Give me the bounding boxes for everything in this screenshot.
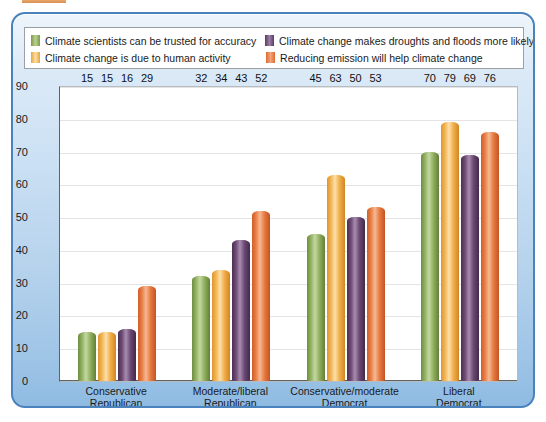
bar-wrapper: 50 xyxy=(347,86,365,381)
bar[interactable]: 50 xyxy=(347,217,365,381)
bar[interactable]: 76 xyxy=(481,132,499,381)
legend-label: Climate change is due to human activity xyxy=(45,52,231,64)
legend-swatch-yellow-icon xyxy=(31,52,40,63)
bar[interactable]: 15 xyxy=(98,332,116,381)
legend-swatch-purple-icon xyxy=(265,35,274,46)
legend-swatch-green-icon xyxy=(31,35,40,46)
y-axis-tick-40: 40 xyxy=(11,244,28,256)
bar-wrapper: 34 xyxy=(212,86,230,381)
y-axis-tick-10: 10 xyxy=(11,342,28,354)
bar-wrapper: 29 xyxy=(138,86,156,381)
bar-wrapper: 79 xyxy=(441,86,459,381)
legend-row: Climate scientists can be trusted for ac… xyxy=(31,32,523,49)
bar-value-label: 45 xyxy=(310,72,322,84)
bar-wrapper: 43 xyxy=(232,86,250,381)
bar[interactable]: 15 xyxy=(78,332,96,381)
bar-value-label: 70 xyxy=(424,72,436,84)
bar[interactable]: 52 xyxy=(252,211,270,381)
y-axis-tick-70: 70 xyxy=(11,146,28,158)
bar-wrapper: 52 xyxy=(252,86,270,381)
legend-swatch-orange-icon xyxy=(266,52,275,63)
chart-panel: Climate scientists can be trusted for ac… xyxy=(11,12,535,408)
bar[interactable]: 70 xyxy=(421,152,439,381)
y-axis-tick-50: 50 xyxy=(11,211,28,223)
y-axis-tick-60: 60 xyxy=(11,178,28,190)
y-axis-tick-90: 90 xyxy=(11,80,28,92)
bar-value-label: 43 xyxy=(235,72,247,84)
bar-group: 32344352 xyxy=(174,86,288,381)
bar-value-label: 52 xyxy=(255,72,267,84)
bar-value-label: 29 xyxy=(141,72,153,84)
legend-row: Climate change is due to human activity … xyxy=(31,49,523,66)
legend-item-droughts-floods: Climate change makes droughts and floods… xyxy=(265,35,523,47)
bar[interactable]: 29 xyxy=(138,286,156,381)
bar-wrapper: 76 xyxy=(481,86,499,381)
bar[interactable]: 63 xyxy=(327,175,345,382)
bar[interactable]: 69 xyxy=(461,155,479,381)
legend-item-human-activity: Climate change is due to human activity xyxy=(31,52,266,64)
legend-label: Climate change makes droughts and floods… xyxy=(279,35,534,47)
bar-value-label: 15 xyxy=(101,72,113,84)
bar[interactable]: 79 xyxy=(441,122,459,381)
bar[interactable]: 45 xyxy=(307,234,325,382)
chart-legend: Climate scientists can be trusted for ac… xyxy=(24,27,524,69)
top-decorative-rule xyxy=(22,0,66,3)
bar-wrapper: 45 xyxy=(307,86,325,381)
bar-group: 45635053 xyxy=(289,86,403,381)
y-axis-tick-20: 20 xyxy=(11,309,28,321)
bar-value-label: 69 xyxy=(464,72,476,84)
legend-item-reducing-emission: Reducing emission will help climate chan… xyxy=(266,52,523,64)
x-axis-label-line: Democrat xyxy=(382,397,535,408)
bar-value-label: 53 xyxy=(370,72,382,84)
x-axis-label: LiberalDemocrat xyxy=(382,385,535,408)
bar[interactable]: 43 xyxy=(232,240,250,381)
bar[interactable]: 34 xyxy=(212,270,230,381)
y-axis-tick-30: 30 xyxy=(11,277,28,289)
bar-wrapper: 63 xyxy=(327,86,345,381)
bar-wrapper: 16 xyxy=(118,86,136,381)
bar-wrapper: 15 xyxy=(98,86,116,381)
legend-item-climate-scientists-trusted: Climate scientists can be trusted for ac… xyxy=(31,35,265,47)
bar-group: 15151629 xyxy=(60,86,174,381)
bar[interactable]: 53 xyxy=(367,207,385,381)
bar-value-label: 63 xyxy=(330,72,342,84)
legend-label: Reducing emission will help climate chan… xyxy=(280,52,483,64)
bar-wrapper: 32 xyxy=(192,86,210,381)
bar-value-label: 50 xyxy=(350,72,362,84)
bar-value-label: 15 xyxy=(81,72,93,84)
bar[interactable]: 16 xyxy=(118,329,136,381)
bar-wrapper: 53 xyxy=(367,86,385,381)
bar-value-label: 32 xyxy=(195,72,207,84)
bar-group: 70796976 xyxy=(403,86,517,381)
bar-value-label: 76 xyxy=(484,72,496,84)
y-axis-tick-0: 0 xyxy=(11,375,28,387)
bar-wrapper: 15 xyxy=(78,86,96,381)
bar-value-label: 16 xyxy=(121,72,133,84)
x-axis-label-line: Liberal xyxy=(382,385,535,397)
bar[interactable]: 32 xyxy=(192,276,210,381)
bar-value-label: 79 xyxy=(444,72,456,84)
y-axis-tick-80: 80 xyxy=(11,113,28,125)
bar-value-label: 34 xyxy=(215,72,227,84)
legend-label: Climate scientists can be trusted for ac… xyxy=(45,35,256,47)
bar-wrapper: 70 xyxy=(421,86,439,381)
bar-groups: 15151629323443524563505370796976 xyxy=(60,86,517,381)
bar-wrapper: 69 xyxy=(461,86,479,381)
